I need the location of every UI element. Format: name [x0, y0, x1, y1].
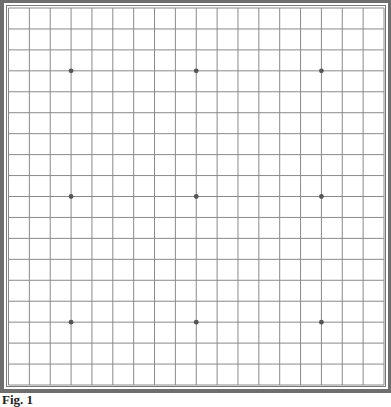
star-point — [69, 68, 74, 73]
star-point — [319, 194, 324, 199]
star-point — [319, 320, 324, 325]
star-point — [69, 320, 74, 325]
star-point — [69, 194, 74, 199]
star-point — [194, 68, 199, 73]
go-board-grid — [0, 0, 391, 393]
star-point — [194, 194, 199, 199]
figure-caption: Fig. 1 — [2, 393, 33, 407]
star-point — [194, 320, 199, 325]
star-point — [319, 68, 324, 73]
